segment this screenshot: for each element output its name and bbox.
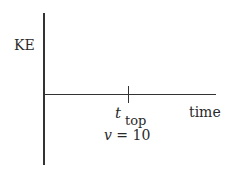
y-axis xyxy=(43,13,45,165)
x-axis-label: time xyxy=(189,104,221,120)
x-axis xyxy=(43,94,216,96)
t-top-tick xyxy=(128,86,130,103)
t-symbol: t xyxy=(115,104,121,122)
velocity-annotation: v = 10 xyxy=(104,127,150,143)
t-subscript: top xyxy=(125,113,146,128)
y-axis-label: KE xyxy=(14,37,35,53)
velocity-variable: v xyxy=(104,127,112,143)
velocity-value: = 10 xyxy=(112,127,150,143)
